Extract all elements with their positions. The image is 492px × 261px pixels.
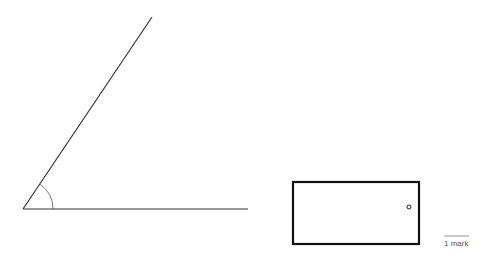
diagram-canvas: [0, 0, 492, 261]
rectangle-box: [293, 182, 419, 244]
scale-label: 1 mark: [444, 239, 468, 248]
small-circle: [407, 205, 411, 209]
angle-ray-upper: [23, 17, 152, 209]
angle-arc: [40, 184, 53, 209]
